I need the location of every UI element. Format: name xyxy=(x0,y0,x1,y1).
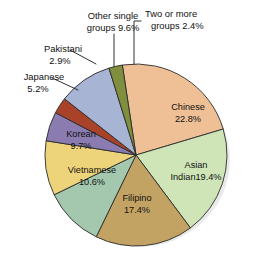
label-other-single-groups-line1: Other single xyxy=(88,10,139,21)
label-vietnamese-line2: 10.6% xyxy=(79,177,105,187)
label-chinese-line1: Chinese xyxy=(171,102,205,112)
label-chinese-line2: 22.8% xyxy=(175,114,201,124)
label-korean-line2: 9.7% xyxy=(71,141,92,151)
label-two-or-more-groups-line1: Two or more xyxy=(145,8,197,19)
label-japanese-line2: 5.2% xyxy=(27,83,48,94)
label-pakistani-line2: 2.9% xyxy=(49,55,70,66)
label-filipino-line1: Filipino xyxy=(122,193,151,203)
label-other-single-groups-line2: groups 9.6% xyxy=(87,22,140,33)
pie-slices xyxy=(45,64,227,246)
label-vietnamese-line1: Vietnamese xyxy=(68,165,116,175)
label-two-or-more-groups-line2: groups 2.4% xyxy=(151,20,204,31)
label-korean-line1: Korean xyxy=(66,129,96,139)
pie-chart: Other single groups 9.6% Two or more gro… xyxy=(0,0,273,263)
label-asian-indian-line2: Indian19.4% xyxy=(170,172,221,182)
label-pakistani-line1: Pakistani xyxy=(44,43,82,54)
pie-chart-canvas: Other single groups 9.6% Two or more gro… xyxy=(0,0,273,263)
label-filipino-line2: 17.4% xyxy=(124,205,150,215)
label-asian-indian-line1: Asian xyxy=(185,160,208,170)
label-japanese-line1: Japanese xyxy=(24,71,65,82)
